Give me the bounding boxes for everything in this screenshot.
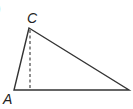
vertex-label-a: A [2,91,12,107]
triangle [14,28,129,90]
part-marker: ) [0,0,1,16]
triangle-diagram: ) C A [0,0,133,109]
vertex-label-c: C [27,10,38,26]
